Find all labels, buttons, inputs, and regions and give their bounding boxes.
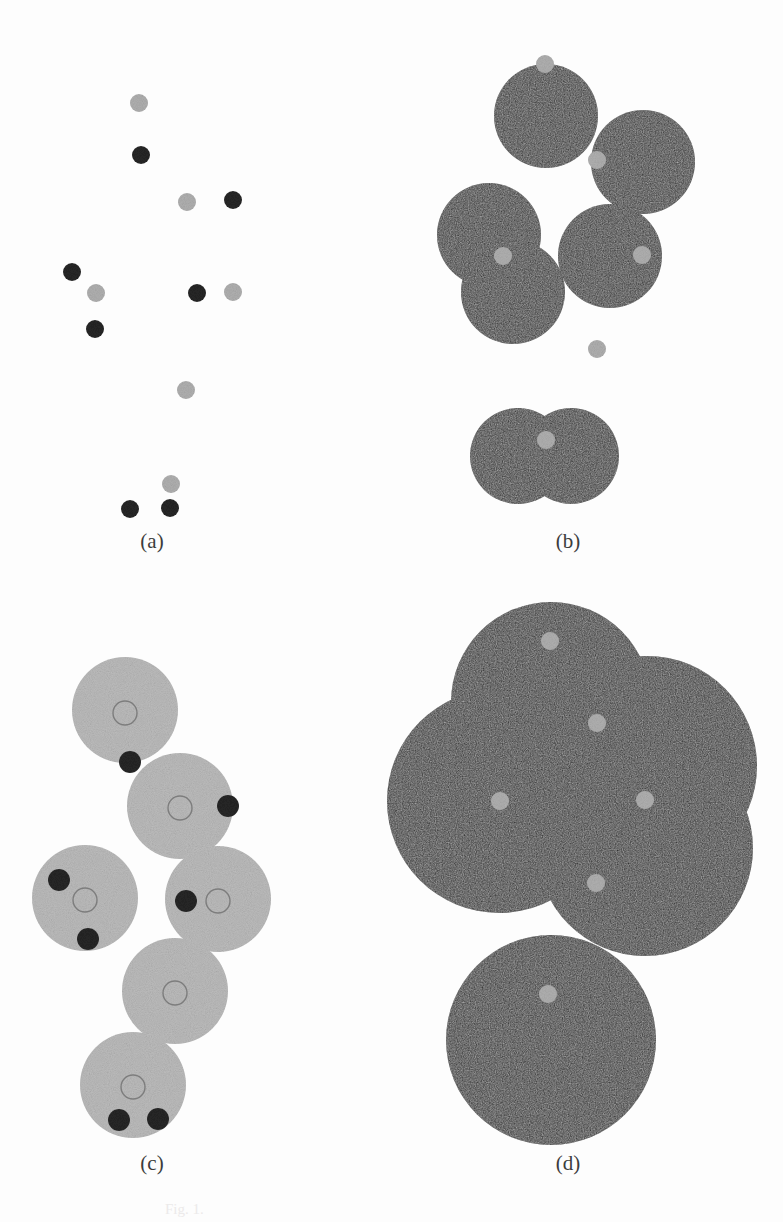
grown-disk-dark — [591, 110, 695, 214]
seed-dot-light — [541, 632, 559, 650]
seed-dot-light — [539, 985, 557, 1003]
seed-dot-light — [587, 874, 605, 892]
figure-root: (a) (b) (c) (d) Fig. 1. — [0, 0, 783, 1222]
seed-dot-dark — [132, 146, 150, 164]
seed-dot-dark — [86, 320, 104, 338]
grown-disk-light — [72, 657, 178, 763]
figure-caption: Fig. 1. — [165, 1201, 204, 1217]
seed-dot-light — [588, 340, 606, 358]
satellite-dot-dark — [147, 1108, 169, 1130]
panel-label-d: (d) — [556, 1151, 581, 1175]
seed-dot-dark — [188, 284, 206, 302]
seed-dot-dark — [63, 263, 81, 281]
satellite-dot-dark — [48, 869, 70, 891]
satellite-dot-dark — [108, 1109, 130, 1131]
seed-dot-dark — [161, 499, 179, 517]
grown-disk-dark-large — [446, 935, 656, 1145]
seed-dot-light — [536, 55, 554, 73]
seed-dot-light — [491, 792, 509, 810]
figure-canvas: (a) (b) (c) (d) Fig. 1. — [0, 0, 783, 1222]
seed-dot-light — [588, 714, 606, 732]
seed-dot-light — [537, 431, 555, 449]
satellite-dot-dark — [175, 890, 197, 912]
grown-disk-dark — [461, 240, 565, 344]
seed-dot-light — [494, 247, 512, 265]
satellite-dot-dark — [77, 928, 99, 950]
satellite-dot-dark — [217, 795, 239, 817]
grown-disk-dark-large — [537, 740, 753, 956]
seed-dot-dark — [121, 500, 139, 518]
panel-label-c: (c) — [140, 1151, 163, 1175]
grown-disk-dark — [523, 408, 619, 504]
seed-dot-light — [177, 381, 195, 399]
grown-disk-light — [122, 938, 228, 1044]
grown-disk-light — [80, 1032, 186, 1138]
seed-dot-light — [178, 193, 196, 211]
grown-disk-dark — [494, 64, 598, 168]
seed-dot-light — [87, 284, 105, 302]
seed-dot-light — [636, 791, 654, 809]
panel-label-a: (a) — [140, 529, 163, 553]
seed-dot-light — [633, 246, 651, 264]
seed-dot-light — [224, 283, 242, 301]
satellite-dot-dark — [119, 751, 141, 773]
seed-dot-dark — [224, 191, 242, 209]
seed-dot-light — [588, 151, 606, 169]
seed-dot-light — [130, 94, 148, 112]
panel-label-b: (b) — [556, 529, 581, 553]
seed-dot-light — [162, 475, 180, 493]
